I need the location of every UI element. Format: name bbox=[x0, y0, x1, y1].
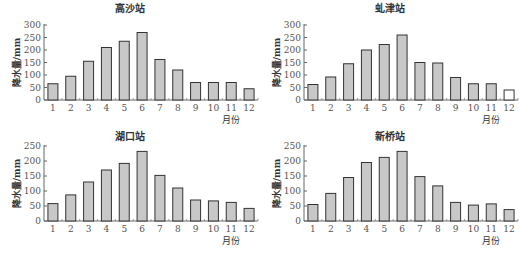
bar-month-7 bbox=[415, 177, 425, 221]
x-tick-label: 1 bbox=[50, 224, 56, 234]
x-tick-label: 8 bbox=[435, 103, 441, 113]
x-tick-label: 9 bbox=[193, 103, 199, 113]
y-tick-label: 0 bbox=[35, 95, 41, 105]
x-tick-label: 2 bbox=[68, 103, 74, 113]
bar-month-1 bbox=[48, 204, 58, 221]
y-tick-label: 250 bbox=[24, 141, 41, 151]
chart-hukou: 湖口站050100150200250降水量/mm123456789101112月… bbox=[0, 128, 260, 257]
x-tick-label: 12 bbox=[503, 103, 514, 113]
chart-xinqiao: 新桥站050100150200250降水量/mm123456789101112月… bbox=[260, 128, 520, 257]
x-tick-label: 7 bbox=[417, 103, 423, 113]
y-tick-label: 50 bbox=[30, 83, 42, 93]
bar-month-9 bbox=[191, 83, 201, 101]
chart-svg: 新桥站050100150200250降水量/mm123456789101112月… bbox=[260, 128, 520, 257]
bar-month-6 bbox=[397, 151, 407, 221]
bar-month-3 bbox=[84, 61, 94, 100]
y-tick-label: 100 bbox=[24, 70, 41, 80]
x-tick-label: 4 bbox=[364, 224, 370, 234]
chart-gaosha: 高沙站050100150200250300降水量/mm1234567891011… bbox=[0, 0, 260, 129]
x-tick-label: 6 bbox=[399, 224, 405, 234]
x-tick-label: 4 bbox=[104, 224, 110, 234]
bar-month-8 bbox=[173, 70, 183, 100]
bar-month-12 bbox=[244, 89, 254, 100]
y-tick-label: 300 bbox=[24, 20, 41, 30]
bar-month-8 bbox=[173, 188, 183, 221]
x-tick-label: 3 bbox=[86, 103, 92, 113]
x-tick-label: 2 bbox=[328, 103, 334, 113]
bar-month-8 bbox=[433, 186, 443, 221]
x-tick-label: 11 bbox=[226, 103, 237, 113]
y-tick-label: 200 bbox=[284, 156, 301, 166]
bar-month-2 bbox=[66, 76, 76, 100]
x-tick-label: 10 bbox=[208, 103, 220, 113]
y-tick-label: 0 bbox=[295, 216, 301, 226]
y-tick-label: 100 bbox=[284, 70, 301, 80]
bar-month-11 bbox=[226, 202, 236, 221]
y-tick-label: 150 bbox=[284, 58, 301, 68]
x-tick-label: 6 bbox=[139, 224, 145, 234]
bar-month-10 bbox=[468, 205, 478, 221]
bar-month-9 bbox=[191, 200, 201, 221]
x-tick-label: 10 bbox=[468, 103, 480, 113]
x-tick-label: 5 bbox=[121, 224, 127, 234]
x-tick-label: 3 bbox=[346, 103, 352, 113]
y-axis-label: 降水量/mm bbox=[271, 37, 282, 87]
y-tick-label: 250 bbox=[24, 33, 41, 43]
bar-month-6 bbox=[137, 33, 147, 101]
chart-qiujin: 虬津站050100150200250300降水量/mm1234567891011… bbox=[260, 0, 520, 129]
x-tick-label: 8 bbox=[175, 224, 181, 234]
bar-month-11 bbox=[226, 83, 236, 101]
bar-month-10 bbox=[208, 201, 218, 221]
x-tick-label: 9 bbox=[193, 224, 199, 234]
y-axis-label: 降水量/mm bbox=[11, 37, 22, 87]
bar-month-2 bbox=[326, 193, 336, 221]
y-axis-label: 降水量/mm bbox=[271, 158, 282, 208]
bar-month-7 bbox=[415, 63, 425, 101]
y-tick-label: 250 bbox=[284, 33, 301, 43]
x-axis-label: 月份 bbox=[222, 114, 240, 125]
y-tick-label: 100 bbox=[24, 186, 41, 196]
bar-month-11 bbox=[486, 84, 496, 100]
x-axis-label: 月份 bbox=[482, 235, 500, 246]
chart-title: 新桥站 bbox=[375, 130, 405, 142]
bar-month-12 bbox=[244, 208, 254, 221]
bar-month-1 bbox=[308, 205, 318, 222]
x-tick-label: 3 bbox=[86, 224, 92, 234]
x-axis-label: 月份 bbox=[482, 114, 500, 125]
chart-title: 湖口站 bbox=[115, 130, 145, 142]
bar-month-4 bbox=[361, 163, 371, 222]
x-tick-label: 3 bbox=[346, 224, 352, 234]
x-tick-label: 4 bbox=[104, 103, 110, 113]
y-tick-label: 150 bbox=[24, 58, 41, 68]
bar-month-9 bbox=[451, 78, 461, 101]
y-tick-label: 200 bbox=[284, 45, 301, 55]
y-tick-label: 200 bbox=[24, 156, 41, 166]
bar-month-3 bbox=[344, 178, 354, 222]
x-tick-label: 5 bbox=[381, 224, 387, 234]
x-tick-label: 2 bbox=[68, 224, 74, 234]
y-tick-label: 50 bbox=[290, 201, 302, 211]
bar-month-4 bbox=[361, 50, 371, 100]
bar-month-5 bbox=[119, 163, 129, 221]
bar-month-5 bbox=[119, 41, 129, 100]
x-tick-label: 2 bbox=[328, 224, 334, 234]
x-tick-label: 11 bbox=[486, 103, 497, 113]
x-tick-label: 12 bbox=[243, 224, 254, 234]
bar-month-6 bbox=[137, 151, 147, 221]
bar-month-4 bbox=[101, 170, 111, 221]
bar-month-1 bbox=[48, 84, 58, 100]
bar-month-11 bbox=[486, 204, 496, 221]
x-tick-label: 10 bbox=[468, 224, 480, 234]
bar-month-10 bbox=[208, 83, 218, 101]
y-axis-label: 降水量/mm bbox=[11, 158, 22, 208]
y-tick-label: 250 bbox=[284, 141, 301, 151]
x-tick-label: 9 bbox=[453, 103, 459, 113]
x-tick-label: 7 bbox=[157, 224, 163, 234]
bar-month-8 bbox=[433, 63, 443, 100]
chart-title: 虬津站 bbox=[375, 2, 405, 14]
bar-month-3 bbox=[344, 64, 354, 100]
x-tick-label: 7 bbox=[157, 103, 163, 113]
x-tick-label: 11 bbox=[226, 224, 237, 234]
y-tick-label: 150 bbox=[284, 171, 301, 181]
bar-month-2 bbox=[66, 195, 76, 221]
